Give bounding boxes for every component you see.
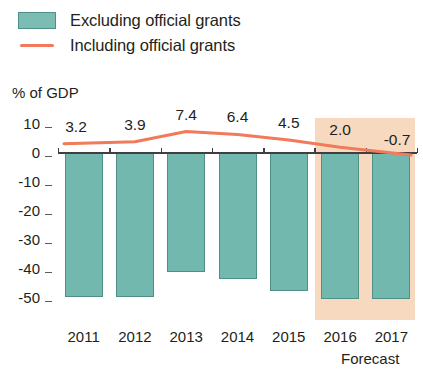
bar-2015 xyxy=(270,153,308,291)
data-label-2016: 2.0 xyxy=(310,121,370,139)
y-axis-tick-label: -10 xyxy=(18,173,40,191)
zero-axis-line xyxy=(58,152,417,154)
bar-2012 xyxy=(116,153,154,297)
y-axis-tick-label: -40 xyxy=(18,260,40,278)
y-axis-tick-mark xyxy=(45,185,52,187)
bar-2011 xyxy=(65,153,103,297)
y-axis-tick: -50 xyxy=(0,289,52,307)
x-axis-tick-mark xyxy=(109,148,110,153)
data-label-2011: 3.2 xyxy=(46,118,106,136)
y-axis-tick-mark xyxy=(45,272,52,274)
y-axis-tick: -30 xyxy=(0,231,52,249)
data-label-2017: -0.7 xyxy=(367,131,423,149)
x-axis-tick-mark xyxy=(58,148,59,153)
x-axis-tick-mark xyxy=(263,148,264,153)
y-axis-tick: 0 xyxy=(0,144,52,162)
y-axis-tick-mark xyxy=(45,214,52,216)
bar-2014 xyxy=(219,153,257,279)
y-axis-tick-mark xyxy=(45,301,52,303)
bar-2013 xyxy=(167,153,205,272)
y-axis-tick: -20 xyxy=(0,202,52,220)
y-axis-tick: -40 xyxy=(0,260,52,278)
y-axis-tick: -10 xyxy=(0,173,52,191)
y-axis-tick-label: -50 xyxy=(18,289,40,307)
y-axis-tick-label: -20 xyxy=(18,202,40,220)
chart-root: Excluding official grants Including offi… xyxy=(0,0,423,370)
y-axis-tick-label: 0 xyxy=(32,144,40,162)
x-axis-tick-mark xyxy=(161,148,162,153)
bar-2017 xyxy=(372,153,410,299)
forecast-caption: Forecast xyxy=(341,350,399,367)
x-axis-label-2017: 2017 xyxy=(361,328,421,345)
x-axis-tick-mark xyxy=(314,148,315,153)
plot-area: 100-10-20-30-40-503.23.97.46.44.52.0-0.7… xyxy=(0,0,423,370)
y-axis-tick-mark xyxy=(45,156,52,158)
bar-2016 xyxy=(321,153,359,299)
y-axis-tick: 10 xyxy=(0,115,52,133)
y-axis-tick-mark xyxy=(45,243,52,245)
y-axis-tick-label: 10 xyxy=(23,115,40,133)
x-axis-tick-mark xyxy=(212,148,213,153)
y-axis-tick-label: -30 xyxy=(18,231,40,249)
